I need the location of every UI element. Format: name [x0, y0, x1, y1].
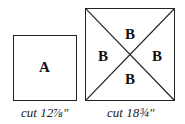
label-a: A	[39, 60, 50, 75]
label-b-right: B	[152, 49, 162, 64]
caption-b: cut 18¾"	[107, 106, 154, 119]
caption-a: cut 12⅞"	[21, 106, 68, 119]
label-b-left: B	[98, 49, 108, 64]
square-b: B B B B	[85, 8, 175, 101]
label-b-top: B	[125, 27, 135, 42]
square-a: A	[13, 35, 77, 101]
label-b-bottom: B	[125, 72, 135, 87]
